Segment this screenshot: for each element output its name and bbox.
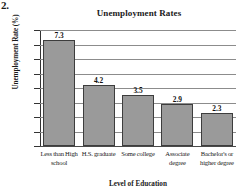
bar[interactable]: 2.9: [161, 104, 193, 146]
problem-number: 2.: [1, 0, 9, 11]
category-label: H.S. graduate: [79, 150, 117, 167]
y-tick-mark: [34, 146, 40, 147]
bar[interactable]: 2.3: [201, 113, 233, 146]
bar[interactable]: 3.5: [122, 95, 154, 146]
bar-slot: 2.9: [158, 30, 196, 146]
bar-slot: 2.3: [198, 30, 236, 146]
bar-series: 7.34.23.52.92.3: [40, 30, 236, 146]
bar-value-label: 7.3: [54, 31, 63, 40]
bar-slot: 7.3: [40, 30, 78, 146]
bar[interactable]: 4.2: [83, 85, 115, 146]
bar-value-label: 4.2: [94, 76, 103, 85]
bar-slot: 4.2: [79, 30, 117, 146]
x-axis-tick-labels: Less than High schoolH.S. graduateSome c…: [40, 150, 236, 167]
bar-slot: 3.5: [119, 30, 157, 146]
category-label: Some college: [119, 150, 157, 167]
gridline: [40, 146, 236, 147]
category-label: Associate degree: [158, 150, 196, 167]
y-axis-title: Unemployment Rate (%): [12, 3, 20, 101]
category-label: Bachelor's or higher degree: [198, 150, 236, 167]
chart-title: Unemployment Rates: [40, 8, 238, 18]
plot-area: 876543210 7.34.23.52.92.3: [40, 30, 236, 146]
x-axis-title: Level of Education: [40, 180, 236, 188]
bar-value-label: 2.9: [173, 95, 182, 104]
bar[interactable]: 7.3: [43, 40, 75, 146]
category-label: Less than High school: [40, 150, 78, 167]
bar-value-label: 2.3: [212, 104, 221, 113]
bar-value-label: 3.5: [133, 86, 142, 95]
